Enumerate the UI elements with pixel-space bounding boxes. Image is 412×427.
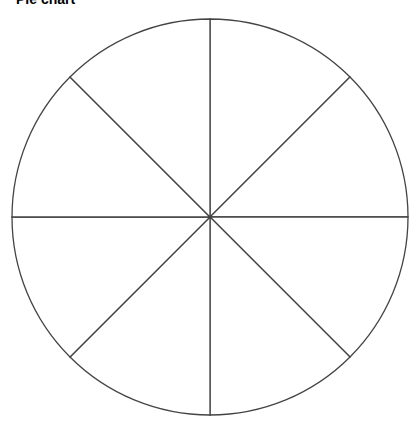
pie-chart (0, 0, 412, 427)
